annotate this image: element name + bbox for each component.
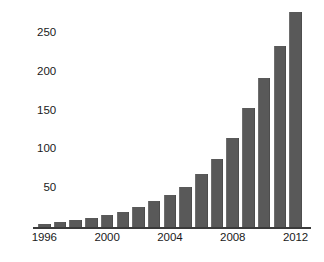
- bar-2010: [258, 78, 271, 227]
- bar-2001: [117, 212, 130, 228]
- x-tick-label-2004: 2004: [150, 231, 190, 244]
- x-tick-label-2000: 2000: [87, 231, 127, 244]
- bar-2005: [179, 187, 192, 227]
- bar-2009: [242, 108, 255, 227]
- bar-2007: [211, 159, 224, 227]
- bar-2000: [101, 215, 114, 227]
- bar-1998: [69, 220, 82, 227]
- x-axis: 1996 2000 2004 2008 2012: [0, 231, 324, 249]
- x-tick-label-2008: 2008: [213, 231, 253, 244]
- bar-2006: [195, 174, 208, 227]
- x-tick-label-1996: 1996: [24, 231, 64, 244]
- bar-2012: [289, 12, 302, 227]
- plot-area: 250 200 150 100 50 1996 2000 2004 2008 2…: [0, 0, 324, 262]
- bar-chart: 250 200 150 100 50 1996 2000 2004 2008 2…: [0, 0, 324, 262]
- bars-layer: [0, 0, 324, 227]
- bar-1999: [85, 218, 98, 227]
- x-tick-label-2012: 2012: [276, 231, 316, 244]
- bar-2003: [148, 201, 161, 227]
- bar-2008: [226, 138, 239, 227]
- bar-2004: [164, 195, 177, 227]
- bar-2011: [274, 46, 287, 227]
- x-axis-line: [33, 227, 311, 229]
- bar-2002: [132, 207, 145, 227]
